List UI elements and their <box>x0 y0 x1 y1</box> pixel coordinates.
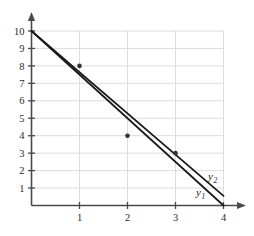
label-y2-subscript: 2 <box>213 176 217 185</box>
y-tick-label: 7 <box>19 78 24 89</box>
chart-figure: 12345678910 1234 y1y2 <box>0 0 254 236</box>
y-axis-tick-labels: 12345678910 <box>14 26 25 194</box>
y-tick-label: 1 <box>19 183 24 194</box>
y-tick-label: 9 <box>19 43 24 54</box>
y-axis-arrowhead <box>28 12 35 21</box>
x-tick-label: 4 <box>221 212 227 223</box>
x-tick-label: 2 <box>125 212 130 223</box>
y-tick-label: 4 <box>19 130 25 141</box>
y-tick-label: 8 <box>19 61 24 72</box>
x-axis-tick-labels: 1234 <box>77 212 227 223</box>
coordinate-plot: 12345678910 1234 y1y2 <box>0 0 254 236</box>
y-tick-label: 5 <box>19 113 24 124</box>
y-tick-label: 2 <box>19 165 24 176</box>
y-tick-label: 3 <box>19 148 24 159</box>
y-tick-label: 10 <box>14 26 25 37</box>
x-tick-label: 1 <box>77 212 82 223</box>
axis-ticks <box>28 31 224 209</box>
label-y1-subscript: 1 <box>201 192 205 201</box>
data-point <box>77 64 82 69</box>
x-tick-label: 3 <box>173 212 178 223</box>
x-axis-arrowhead <box>237 202 246 209</box>
data-point <box>125 133 130 138</box>
data-point <box>173 151 178 156</box>
y-tick-label: 6 <box>19 95 24 106</box>
